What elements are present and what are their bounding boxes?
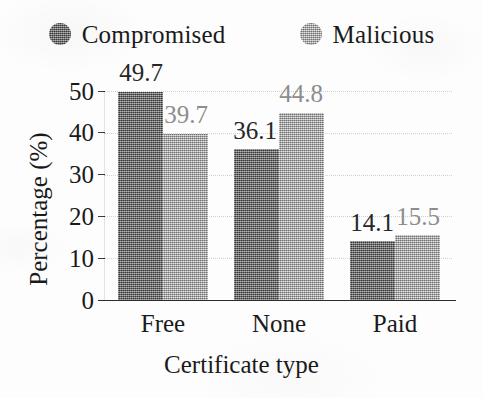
x-tick-label-paid: Paid xyxy=(373,311,417,336)
legend-label-malicious: Malicious xyxy=(333,22,435,47)
y-tick-label-30: 30 xyxy=(36,162,94,187)
y-tick-label-20: 20 xyxy=(36,204,94,229)
x-tick-label-none: None xyxy=(252,311,306,336)
x-axis-title: Certificate type xyxy=(0,352,483,377)
x-axis-baseline xyxy=(98,300,456,301)
x-tick-label-free: Free xyxy=(141,311,185,336)
bar-value-none-malicious: 44.8 xyxy=(270,81,332,106)
y-tick-label-40: 40 xyxy=(36,120,94,145)
bar-paid-compromised[interactable] xyxy=(350,241,395,300)
bar-value-paid-malicious: 15.5 xyxy=(387,204,449,229)
x-axis-tick-labels: Free None Paid xyxy=(104,311,452,347)
bar-value-free-compromised: 49.7 xyxy=(110,60,172,85)
legend-item-malicious[interactable]: Malicious xyxy=(300,22,435,47)
bar-value-free-malicious: 39.7 xyxy=(155,102,217,127)
plot-area: 49.7 39.7 36.1 44.8 14.1 15.5 xyxy=(104,91,452,300)
bar-free-malicious[interactable] xyxy=(163,134,208,300)
chart-figure: Compromised Malicious Percentage (%) 50 … xyxy=(0,0,483,398)
y-axis-tick-labels: 50 40 30 20 10 0 xyxy=(32,0,94,398)
y-tick-label-0: 0 xyxy=(36,288,94,313)
bar-value-none-compromised: 36.1 xyxy=(224,118,286,143)
bar-paid-malicious[interactable] xyxy=(395,235,440,300)
legend-label-compromised: Compromised xyxy=(82,22,226,47)
y-tick-label-10: 10 xyxy=(36,246,94,271)
y-tick-label-50: 50 xyxy=(36,79,94,104)
bar-none-malicious[interactable] xyxy=(279,113,324,300)
malicious-swatch-icon xyxy=(300,23,322,45)
bar-none-compromised[interactable] xyxy=(234,149,279,300)
